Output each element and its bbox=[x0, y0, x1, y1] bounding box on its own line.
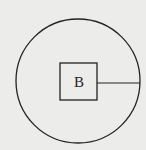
diagram-canvas: B bbox=[0, 0, 146, 150]
square-label: B bbox=[74, 74, 84, 90]
